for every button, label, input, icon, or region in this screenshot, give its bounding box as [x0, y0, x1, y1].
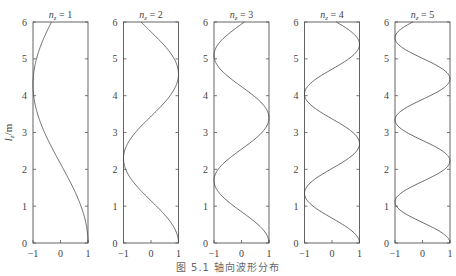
plot-frame: [33, 22, 88, 243]
y-tick-label: 5: [294, 53, 299, 64]
x-tick-label: 1: [86, 248, 91, 259]
y-tick-label: 6: [113, 17, 118, 28]
y-tick-label: 4: [384, 90, 389, 101]
y-tick-label: 2: [203, 164, 208, 175]
x-tick-label: 1: [448, 248, 453, 259]
panel-title: nz = 5: [411, 9, 434, 22]
x-tick-label: 1: [267, 248, 272, 259]
y-tick-label: 3: [384, 127, 389, 138]
x-tick-label: 1: [357, 248, 362, 259]
mode-curve: [214, 22, 269, 243]
y-tick-label: 5: [113, 53, 118, 64]
y-tick-label: 1: [384, 201, 389, 212]
plot-frame: [124, 22, 179, 243]
y-tick-label: 3: [113, 127, 118, 138]
y-tick-label: 3: [203, 127, 208, 138]
panel-title: nz = 2: [139, 9, 162, 22]
x-tick-label: −1: [118, 248, 129, 259]
mode-curve: [124, 22, 179, 243]
y-tick-label: 3: [294, 127, 299, 138]
y-tick-label: 0: [203, 238, 208, 249]
x-tick-label: −1: [28, 248, 39, 259]
figure-caption: 图 5.1 轴向波形分布: [0, 259, 456, 274]
y-tick-label: 0: [294, 238, 299, 249]
panel-1: 0123456−101nz = 1: [22, 9, 91, 259]
y-axis-label: lz/m: [2, 123, 16, 141]
x-tick-label: 0: [239, 248, 244, 259]
plot-frame: [214, 22, 269, 243]
panel-5: 0123456−101nz = 5: [384, 9, 453, 259]
y-tick-label: 0: [113, 238, 118, 249]
y-tick-label: 5: [203, 53, 208, 64]
y-tick-label: 4: [203, 90, 208, 101]
plot-frame: [305, 22, 360, 243]
x-tick-label: −1: [209, 248, 220, 259]
panel-title: nz = 4: [320, 9, 343, 22]
plot-frame: [395, 22, 450, 243]
y-tick-label: 4: [22, 90, 27, 101]
x-tick-label: 1: [176, 248, 181, 259]
y-tick-label: 1: [22, 201, 27, 212]
y-tick-label: 5: [22, 53, 27, 64]
y-tick-label: 1: [294, 201, 299, 212]
y-tick-label: 3: [22, 127, 27, 138]
mode-curve: [395, 22, 450, 243]
mode-curve: [33, 22, 88, 243]
y-tick-label: 2: [294, 164, 299, 175]
panel-title: nz = 1: [49, 9, 72, 22]
x-tick-label: 0: [58, 248, 63, 259]
x-tick-label: 0: [330, 248, 335, 259]
x-tick-label: 0: [420, 248, 425, 259]
y-tick-label: 2: [384, 164, 389, 175]
y-tick-label: 0: [22, 238, 27, 249]
y-tick-label: 1: [113, 201, 118, 212]
x-tick-label: 0: [149, 248, 154, 259]
x-tick-label: −1: [299, 248, 310, 259]
y-tick-label: 2: [113, 164, 118, 175]
panel-4: 0123456−101nz = 4: [294, 9, 363, 259]
y-tick-label: 4: [294, 90, 299, 101]
y-tick-label: 4: [113, 90, 118, 101]
x-tick-label: −1: [390, 248, 401, 259]
y-tick-label: 5: [384, 53, 389, 64]
y-tick-label: 6: [203, 17, 208, 28]
y-tick-label: 6: [384, 17, 389, 28]
y-tick-label: 1: [203, 201, 208, 212]
y-tick-label: 6: [22, 17, 27, 28]
y-tick-label: 2: [22, 164, 27, 175]
panel-title: nz = 3: [230, 9, 253, 22]
y-tick-label: 0: [384, 238, 389, 249]
panel-2: 0123456−101nz = 2: [113, 9, 182, 259]
figure: 0123456−101nz = 10123456−101nz = 2012345…: [0, 0, 456, 276]
panel-3: 0123456−101nz = 3: [203, 9, 272, 259]
mode-curve: [305, 22, 360, 243]
y-tick-label: 6: [294, 17, 299, 28]
